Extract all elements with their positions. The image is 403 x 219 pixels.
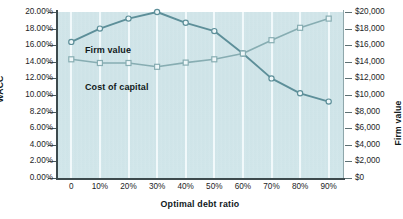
y-tick-label: 20.00%	[0, 8, 53, 16]
y-tick-label: 6.00%	[0, 124, 53, 132]
firm-value-label: Firm value	[85, 45, 131, 55]
x-tick-label: 80%	[292, 183, 308, 191]
gridline	[70, 12, 72, 178]
gridline	[328, 12, 330, 178]
y2-tick-label: $14,000	[355, 58, 385, 66]
y-tick-label: 8.20%	[0, 107, 53, 115]
y2-tick-label: $20,000	[355, 8, 385, 16]
gridline	[271, 12, 273, 178]
y2-axis-line	[343, 10, 344, 180]
y2-tick-mark	[345, 161, 352, 162]
y2-tick-mark	[345, 62, 352, 63]
y2-tick-label: $16,000	[355, 41, 385, 49]
y2-tick-mark	[345, 128, 352, 129]
gridline	[128, 12, 130, 178]
gridline	[242, 12, 244, 178]
y2-axis-title: Firm value	[393, 101, 403, 146]
gridline	[213, 12, 215, 178]
x-tick-label: 60%	[235, 183, 251, 191]
y-axis-line	[56, 10, 58, 180]
y-tick-label: 2.00%	[0, 157, 53, 165]
x-tick-label: 20%	[120, 183, 136, 191]
y2-tick-label: $0	[355, 174, 364, 182]
y-tick-label: 0.00%	[0, 174, 53, 182]
y-tick-label: 14.00%	[0, 58, 53, 66]
y-tick-label: 4.00%	[0, 141, 53, 149]
y2-tick-mark	[345, 78, 352, 79]
gridline	[299, 12, 301, 178]
x-tick-label: 90%	[320, 183, 336, 191]
y-axis-title: WACC	[0, 75, 5, 102]
x-tick-label: 10%	[92, 183, 108, 191]
y2-tick-label: $10,000	[355, 91, 385, 99]
y2-tick-label: $4,000	[355, 141, 380, 149]
gridline	[99, 12, 101, 178]
y2-tick-label: $12,000	[355, 74, 385, 82]
y-tick-label: 16.00%	[0, 41, 53, 49]
y-tick-label: 10.00%	[0, 91, 53, 99]
gridline	[185, 12, 187, 178]
plot-area	[57, 12, 343, 178]
x-axis-line	[56, 178, 345, 180]
y2-tick-mark	[345, 112, 352, 113]
y2-tick-mark	[345, 12, 352, 13]
y2-tick-mark	[345, 95, 352, 96]
y2-tick-label: $8,000	[355, 107, 380, 115]
y-tick-label: 12.00%	[0, 74, 53, 82]
x-tick-label: 50%	[206, 183, 222, 191]
y2-tick-mark	[345, 45, 352, 46]
y2-tick-mark	[345, 145, 352, 146]
y2-tick-mark	[345, 29, 352, 30]
y2-tick-label: $6,000	[355, 124, 380, 132]
x-tick-label: 70%	[263, 183, 279, 191]
y2-tick-label: $18,000	[355, 24, 385, 32]
cost-of-capital-label: Cost of capital	[85, 82, 149, 92]
x-tick-label: 40%	[177, 183, 193, 191]
y-tick-label: 18.00%	[0, 24, 53, 32]
x-tick-label: 0	[69, 183, 74, 191]
x-tick-label: 30%	[149, 183, 165, 191]
y2-tick-label: $2,000	[355, 157, 380, 165]
gridline	[156, 12, 158, 178]
y2-tick-mark	[345, 178, 352, 179]
x-axis-title: Optimal debt ratio	[161, 199, 240, 209]
